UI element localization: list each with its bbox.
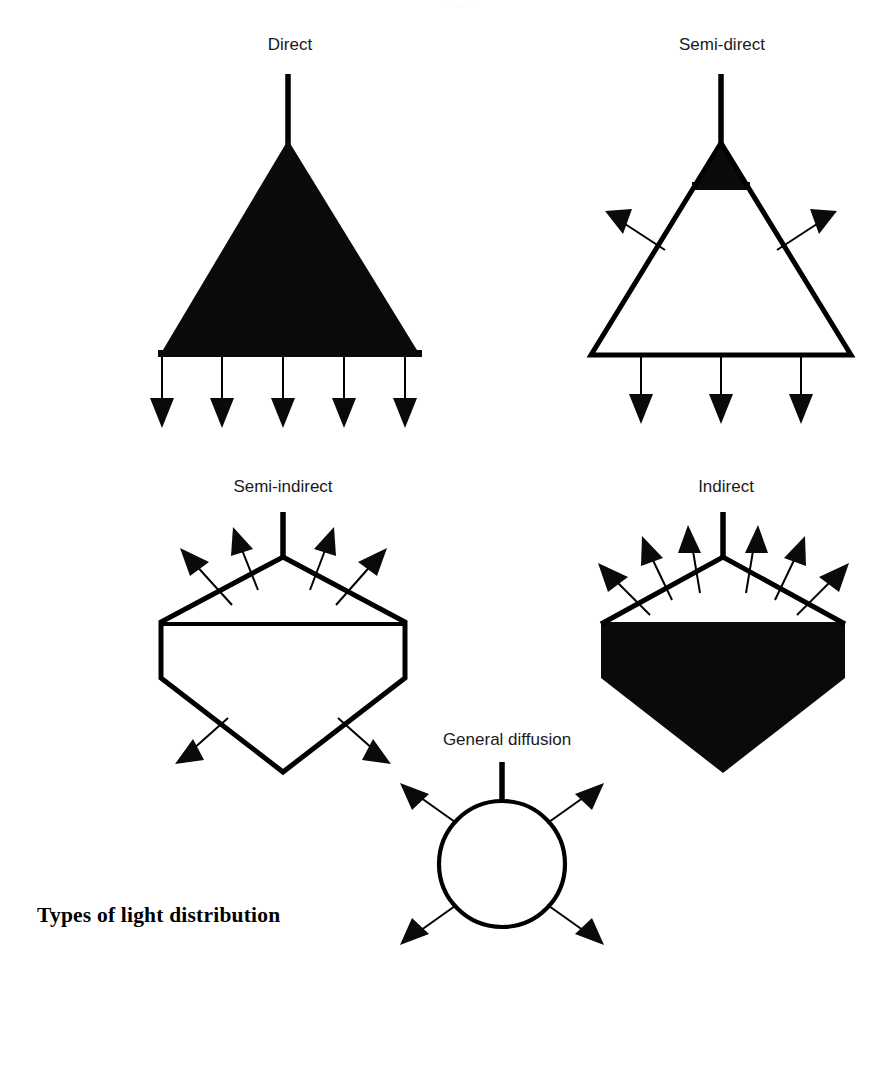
diagram-label-general-diffusion: General diffusion [443, 730, 571, 749]
diagram-label-direct: Direct [268, 35, 313, 54]
light-distribution-figure: ......... Direct [0, 0, 876, 1069]
figure-title: Types of light distribution [37, 903, 280, 927]
diagram-label-indirect: Indirect [698, 477, 754, 496]
direct-luminaire-base [158, 350, 422, 357]
diagram-label-semi-indirect: Semi-indirect [233, 477, 332, 496]
diagram-label-semi-direct: Semi-direct [679, 35, 765, 54]
cropped-header-text: ......... [440, 0, 475, 9]
figure-canvas: ......... Direct [0, 0, 876, 1069]
semi-direct-cap-edge [692, 182, 750, 190]
